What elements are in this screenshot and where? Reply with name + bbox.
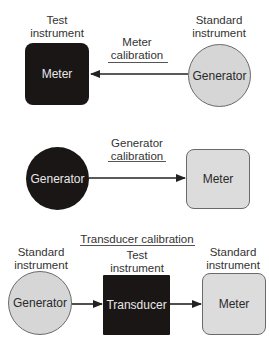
generator-circle-standard-2: Generator [8, 271, 72, 335]
generator-circle-standard: Generator [188, 44, 251, 107]
title-text: Transducer calibration [80, 233, 193, 245]
generator-circle-test: Generator [26, 147, 89, 210]
standard-instrument-caption-left: Standard instrument [8, 246, 74, 272]
caption-line: instrument [186, 27, 252, 40]
standard-instrument-caption-right: Standard instrument [200, 246, 266, 272]
title-line: Generator [104, 137, 170, 150]
generator-label: Generator [13, 296, 67, 310]
transducer-box-test: Transducer [103, 275, 170, 335]
caption-line: Standard [186, 14, 252, 27]
test-instrument-caption-middle: Test instrument [104, 249, 170, 275]
generator-calibration-underline [108, 161, 166, 162]
test-instrument-caption: Test instrument [25, 14, 89, 40]
meter-box-standard: Meter [186, 149, 250, 209]
meter-box-test: Meter [25, 43, 89, 105]
generator-calibration-title: Generator calibration [104, 137, 170, 163]
generator-label: Generator [192, 69, 246, 83]
generator-label: Generator [30, 172, 84, 186]
meter-calibration-underline [108, 62, 168, 63]
transducer-label: Transducer [106, 298, 166, 312]
transducer-calibration-underline [80, 245, 195, 246]
caption-line: Test [104, 249, 170, 262]
title-line: Meter [105, 36, 169, 49]
caption-line: instrument [200, 259, 266, 272]
caption-line: Test [25, 14, 89, 27]
caption-line: Standard [200, 246, 266, 259]
meter-calibration-title: Meter calibration [105, 36, 169, 62]
caption-line: instrument [25, 27, 89, 40]
standard-instrument-caption: Standard instrument [186, 14, 252, 40]
title-line: calibration [105, 49, 169, 62]
meter-label: Meter [42, 67, 73, 81]
meter-label: Meter [203, 172, 234, 186]
meter-box-standard-2: Meter [202, 273, 266, 335]
caption-line: instrument [104, 262, 170, 275]
caption-line: Standard [8, 246, 74, 259]
meter-label: Meter [219, 297, 250, 311]
